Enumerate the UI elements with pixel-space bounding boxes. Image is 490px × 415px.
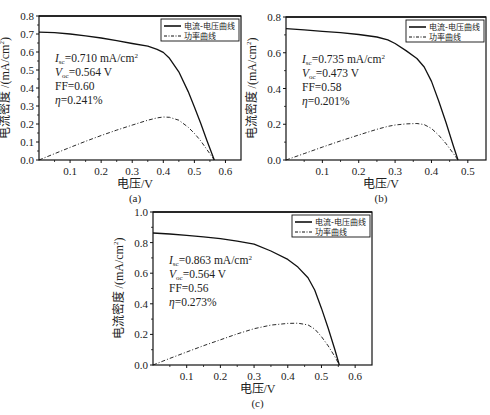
x-axis-title: 电压/V xyxy=(363,177,399,191)
x-tick-label: 0.6 xyxy=(219,165,233,177)
x-tick-label: 0.2 xyxy=(214,370,228,382)
legend-entry: 电流-电压曲线 xyxy=(184,21,235,31)
x-tick-label: 0.5 xyxy=(315,370,329,382)
y-tick-label: 0.1 xyxy=(20,136,34,148)
annotation-line: Isc=0.863 mA/cm2 xyxy=(168,254,252,268)
y-axis: 0.00.20.40.60.81.0 xyxy=(134,206,153,371)
annotation-line: FF=0.58 xyxy=(302,81,342,93)
y-tick-label: 0.0 xyxy=(134,359,148,371)
subfigure-caption: (a) xyxy=(129,192,142,205)
x-tick-label: 0.4 xyxy=(156,165,170,177)
power-curve xyxy=(153,323,339,365)
annotation-line: η=0.201% xyxy=(302,95,350,108)
subfigure-caption: (c) xyxy=(251,397,264,410)
annotation-line: FF=0.60 xyxy=(55,80,95,92)
x-tick-label: 0.1 xyxy=(180,370,194,382)
x-tick-label: 0.3 xyxy=(247,370,261,382)
y-axis-title: 电流密度 /(mA/cm2) xyxy=(0,37,12,139)
y-axis-title: 电流密度 /(mA/cm2) xyxy=(111,238,126,340)
legend: 电流-电压曲线功率曲线 xyxy=(161,19,239,41)
y-axis-title: 电流密度 /(mA/cm2) xyxy=(244,38,259,140)
x-axis: 0.10.20.30.40.50.6 xyxy=(55,160,233,177)
legend-entry: 功率曲线 xyxy=(184,31,216,41)
y-tick-label: 0.4 xyxy=(20,82,34,94)
chart-c: 0.00.20.40.60.81.00.10.20.30.40.50.6电压/V… xyxy=(111,206,372,410)
x-tick-label: 0.2 xyxy=(94,165,108,177)
x-tick-label: 0.2 xyxy=(352,165,366,177)
power-curve xyxy=(286,124,458,161)
y-tick-label: 0.6 xyxy=(20,46,34,58)
parameter-annotations: Isc=0.863 mA/cm2Voc=0.564 VFF=0.56η=0.27… xyxy=(168,254,252,309)
annotation-line: Voc=0.564 V xyxy=(169,268,227,282)
y-tick-label: 0.0 xyxy=(267,154,281,166)
legend-entry: 电流-电压曲线 xyxy=(429,22,480,32)
x-axis-title: 电压/V xyxy=(240,382,276,396)
legend-entry: 功率曲线 xyxy=(429,32,461,42)
y-tick-label: 0.5 xyxy=(20,64,34,76)
y-axis: 0.00.20.40.60.8 xyxy=(267,11,286,166)
x-tick-label: 0.5 xyxy=(188,165,202,177)
y-tick-label: 0.4 xyxy=(267,83,281,95)
y-tick-label: 1.0 xyxy=(134,206,148,218)
y-tick-label: 0.8 xyxy=(20,10,34,22)
x-tick-label: 0.4 xyxy=(425,165,439,177)
chart-b: 0.00.20.40.60.80.10.20.30.40.5电压/V电流密度 /… xyxy=(244,11,486,205)
legend-entry: 功率曲线 xyxy=(315,227,347,237)
figure-canvas: 0.00.10.20.30.40.50.60.70.80.10.20.30.40… xyxy=(0,0,490,415)
legend: 电流-电压曲线功率曲线 xyxy=(292,215,370,237)
x-axis: 0.10.20.30.40.50.6 xyxy=(170,365,363,382)
y-tick-label: 0.8 xyxy=(267,11,281,23)
subfigure-caption: (b) xyxy=(375,192,388,205)
annotation-line: FF=0.56 xyxy=(169,282,209,294)
annotation-line: η=0.273% xyxy=(169,296,217,309)
y-tick-label: 0.2 xyxy=(134,328,148,340)
x-tick-label: 0.4 xyxy=(281,370,295,382)
x-axis: 0.10.20.30.40.5 xyxy=(304,160,475,177)
y-tick-label: 0.3 xyxy=(20,100,34,112)
y-tick-label: 0.4 xyxy=(134,298,148,310)
y-tick-label: 0.2 xyxy=(20,118,34,130)
annotation-line: Isc=0.710 mA/cm2 xyxy=(54,52,138,66)
annotation-line: Voc=0.564 V xyxy=(55,66,113,80)
annotation-line: Isc=0.735 mA/cm2 xyxy=(301,53,385,67)
chart-a: 0.00.10.20.30.40.50.60.70.80.10.20.30.40… xyxy=(0,10,241,205)
legend-entry: 电流-电压曲线 xyxy=(315,217,366,227)
y-tick-label: 0.8 xyxy=(134,237,148,249)
x-tick-label: 0.1 xyxy=(315,165,329,177)
x-tick-label: 0.6 xyxy=(348,370,362,382)
y-axis: 0.00.10.20.30.40.50.60.70.8 xyxy=(20,10,39,166)
y-tick-label: 0.2 xyxy=(267,118,281,130)
y-tick-label: 0.0 xyxy=(20,154,34,166)
y-tick-label: 0.6 xyxy=(267,47,281,59)
x-tick-label: 0.5 xyxy=(461,165,475,177)
parameter-annotations: Isc=0.710 mA/cm2Voc=0.564 VFF=0.60η=0.24… xyxy=(54,52,138,107)
annotation-line: η=0.241% xyxy=(55,94,103,107)
x-tick-label: 0.3 xyxy=(388,165,402,177)
power-curve xyxy=(39,117,214,160)
x-tick-label: 0.3 xyxy=(125,165,139,177)
x-tick-label: 0.1 xyxy=(63,165,77,177)
y-tick-label: 0.7 xyxy=(20,28,34,40)
annotation-line: Voc=0.473 V xyxy=(302,67,360,81)
x-axis-title: 电压/V xyxy=(117,177,153,191)
y-tick-label: 0.6 xyxy=(134,267,148,279)
legend: 电流-电压曲线功率曲线 xyxy=(406,20,484,42)
parameter-annotations: Isc=0.735 mA/cm2Voc=0.473 VFF=0.58η=0.20… xyxy=(301,53,385,108)
